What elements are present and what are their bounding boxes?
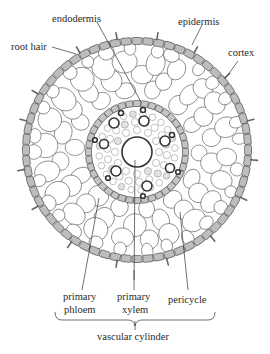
epidermis-cell xyxy=(24,166,33,177)
stele-cell xyxy=(172,145,179,152)
stele-cell xyxy=(128,186,135,193)
stele-cell xyxy=(133,170,140,177)
stele-cell xyxy=(153,159,160,166)
root-hair xyxy=(240,197,246,200)
root-hair xyxy=(18,169,25,170)
epidermis-cell xyxy=(244,155,252,166)
epidermis-cell xyxy=(143,255,154,263)
xylem-vessel-small xyxy=(170,133,175,138)
stele-cell xyxy=(130,111,137,118)
epidermis-cell xyxy=(244,134,252,145)
endodermis-cell xyxy=(125,196,133,203)
stele-cell xyxy=(151,124,158,131)
stele-cell xyxy=(114,137,121,144)
root-hair xyxy=(32,91,38,95)
root-hair xyxy=(32,206,38,210)
stele-cell xyxy=(155,148,162,155)
epidermis-cell xyxy=(110,252,121,261)
leader-root-hair xyxy=(52,47,76,54)
epidermis-cell xyxy=(121,255,132,263)
root-hair xyxy=(20,119,27,121)
endodermis-cell xyxy=(125,101,133,108)
stele-cell xyxy=(121,121,128,128)
endodermis-cell xyxy=(181,140,188,148)
epidermis-cell xyxy=(110,39,121,48)
label-pericycle: pericycle xyxy=(168,294,207,305)
epidermis-cell xyxy=(23,134,31,145)
stele-cell xyxy=(163,173,170,180)
stele-cell xyxy=(104,156,111,163)
endodermis-cell xyxy=(181,156,188,164)
endodermis-cell xyxy=(86,156,93,164)
epidermis-cell xyxy=(245,145,252,155)
xylem-vessel xyxy=(160,136,170,146)
epidermis-cell xyxy=(143,38,154,46)
central-xylem-vessel xyxy=(122,137,152,167)
xylem-vessel xyxy=(139,116,149,126)
epidermis-cell xyxy=(121,38,132,46)
root-hair xyxy=(247,119,254,121)
xylem-vessel xyxy=(109,118,119,128)
stele-cell xyxy=(131,119,138,126)
root-hair xyxy=(194,47,198,53)
root-section xyxy=(18,33,258,267)
label-primary-phloem-line2: phloem xyxy=(64,304,96,315)
stele-cell xyxy=(118,183,125,190)
root-hair xyxy=(167,258,169,265)
endodermis-cell xyxy=(133,101,140,107)
root-hair xyxy=(210,236,215,241)
epidermis-cell xyxy=(153,39,164,48)
xylem-vessel-small xyxy=(106,176,111,181)
root-hair xyxy=(157,33,158,40)
xylem-vessel xyxy=(166,164,175,173)
label-primary-xylem-line1: primary xyxy=(117,291,151,302)
root-cross-section-diagram: endodermis epidermis root hair cortex pr… xyxy=(0,0,270,354)
epidermis-cell xyxy=(241,123,250,134)
stele-cell xyxy=(164,126,171,133)
stele-cell xyxy=(125,177,132,184)
stele-cell xyxy=(122,129,129,136)
label-primary-phloem-line1: primary xyxy=(63,291,97,302)
stele-cell xyxy=(171,155,178,162)
xylem-vessel xyxy=(100,140,109,149)
root-hair xyxy=(116,33,117,40)
xylem-vessel-small xyxy=(141,194,146,199)
stele-cell xyxy=(163,152,170,159)
xylem-vessel-small xyxy=(93,138,98,143)
stele-cell xyxy=(153,137,160,144)
epidermis-cell xyxy=(23,145,30,155)
xylem-vessel xyxy=(111,166,121,176)
root-hair xyxy=(77,47,81,53)
epidermis-cell xyxy=(132,38,142,45)
stele-cell xyxy=(144,129,151,136)
endodermis-cell xyxy=(183,148,189,155)
stele-cell xyxy=(154,170,161,177)
root-hair xyxy=(68,242,72,248)
xylem-vessel-small xyxy=(176,170,181,175)
label-epidermis: epidermis xyxy=(178,16,219,27)
xylem-vessel-small xyxy=(119,111,124,116)
epidermis-cell xyxy=(132,256,142,263)
endodermis-cell xyxy=(141,101,149,108)
endodermis-cell xyxy=(86,148,92,155)
stele-cell xyxy=(111,148,118,155)
xylem-vessel xyxy=(142,181,152,191)
stele-cell xyxy=(144,168,151,175)
stele-cell xyxy=(149,114,156,121)
stele-cell xyxy=(156,179,163,186)
label-root-hair: root hair xyxy=(11,41,47,52)
root-hair xyxy=(116,260,117,267)
leader-epidermis xyxy=(192,25,202,45)
label-vascular-cylinder: vascular cylinder xyxy=(97,331,170,342)
stele-cell xyxy=(98,162,105,169)
epidermis-cell xyxy=(241,166,250,177)
label-primary-xylem-line2: xylem xyxy=(122,304,148,315)
leader-cortex xyxy=(225,61,238,79)
label-cortex: cortex xyxy=(228,47,255,58)
stele-cell xyxy=(133,126,140,133)
endodermis-cell xyxy=(86,140,93,148)
label-endodermis: endodermis xyxy=(52,13,101,24)
stele-cell xyxy=(158,119,165,126)
epidermis-cell xyxy=(153,252,164,261)
stele-cell xyxy=(122,168,129,175)
